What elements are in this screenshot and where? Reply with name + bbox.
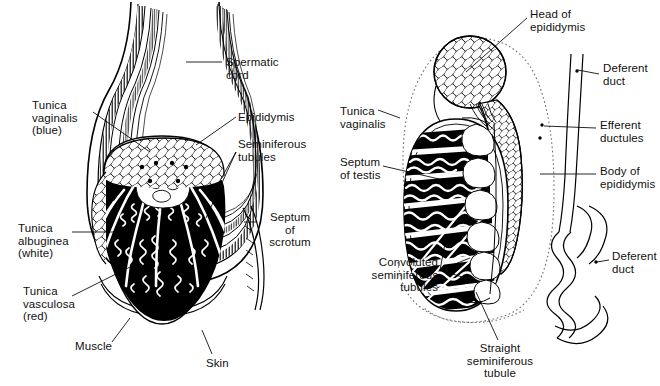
deferent-duct-upper-structure [559, 54, 583, 232]
label-straight-seminiferous-tubule: Straight seminiferous tubule [452, 342, 548, 380]
anatomy-figure: Spermatic cord Tunica vaginalis (blue) E… [0, 0, 660, 386]
label-spermatic-cord: Spermatic cord [226, 56, 279, 81]
label-convoluted-seminiferous-tubules: Convoluted seminiferous tubules [348, 256, 438, 294]
label-body-of-epididymis: Body of epididymis [600, 165, 655, 190]
label-muscle: Muscle [75, 340, 112, 353]
label-tunica-vasculosa: Tunica vasculosa (red) [23, 285, 75, 323]
right-diagram-group [378, 18, 609, 344]
left-diagram-group [72, 2, 264, 354]
label-efferent-ductules: Efferent ductules [600, 119, 644, 144]
label-epididymis: Epididymis [238, 111, 295, 124]
label-tunica-vaginalis: Tunica vaginalis (blue) [32, 99, 78, 137]
label-septum-of-scrotum: Septum of scrotum [259, 211, 321, 249]
label-skin: Skin [206, 357, 229, 370]
label-head-of-epididymis: Head of epididymis [530, 8, 585, 33]
label-deferent-duct-upper: Deferent duct [603, 62, 648, 87]
label-septum-of-testis: Septum of testis [340, 156, 381, 181]
label-deferent-duct-lower: Deferent duct [612, 250, 657, 275]
anatomy-illustration [0, 0, 660, 386]
deferent-duct-convoluted-structure [547, 206, 608, 344]
label-seminiferous-tubules: Seminiferous tubules [238, 138, 306, 163]
label-tunica-albuginea: Tunica albuginea (white) [18, 222, 69, 260]
label-tunica-vaginalis-right: Tunica vaginalis [340, 105, 386, 130]
